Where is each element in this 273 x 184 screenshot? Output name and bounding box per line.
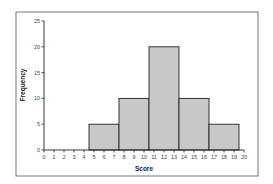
histogram-chart: 0510152025 01234567891011121314151617181…: [0, 0, 273, 184]
x-tick-label: 10: [141, 154, 147, 160]
x-tick-label: 3: [72, 154, 75, 160]
x-tick-label: 8: [122, 154, 125, 160]
x-axis-title: Score: [135, 165, 153, 172]
histogram-bar: [149, 47, 179, 150]
x-tick-label: 9: [132, 154, 135, 160]
x-tick-label: 13: [171, 154, 177, 160]
y-tick-label: 5: [37, 121, 40, 127]
histogram-bar: [209, 124, 239, 150]
x-tick-label: 16: [201, 154, 207, 160]
x-tick-label: 7: [112, 154, 115, 160]
x-tick-label: 0: [42, 154, 45, 160]
x-tick-label: 18: [221, 154, 227, 160]
y-tick-label: 0: [37, 147, 40, 153]
x-tick-label: 12: [161, 154, 167, 160]
histogram-bar: [119, 98, 149, 150]
y-axis-title: Frequency: [19, 68, 27, 101]
y-tick-label: 10: [34, 95, 40, 101]
y-tick-label: 20: [34, 44, 40, 50]
histogram-bar: [89, 124, 119, 150]
x-tick-label: 17: [211, 154, 217, 160]
x-tick-label: 6: [102, 154, 105, 160]
y-tick-label: 15: [34, 70, 40, 76]
histogram-bar: [179, 98, 209, 150]
x-tick-label: 20: [241, 154, 247, 160]
x-tick-label: 2: [62, 154, 65, 160]
x-tick-label: 4: [82, 154, 85, 160]
x-tick-label: 5: [92, 154, 95, 160]
chart-frame: [16, 12, 258, 176]
x-tick-label: 14: [181, 154, 187, 160]
x-tick-label: 1: [52, 154, 55, 160]
y-tick-label: 25: [34, 18, 40, 24]
x-tick-label: 19: [231, 154, 237, 160]
x-tick-label: 11: [151, 154, 157, 160]
x-tick-label: 15: [191, 154, 197, 160]
